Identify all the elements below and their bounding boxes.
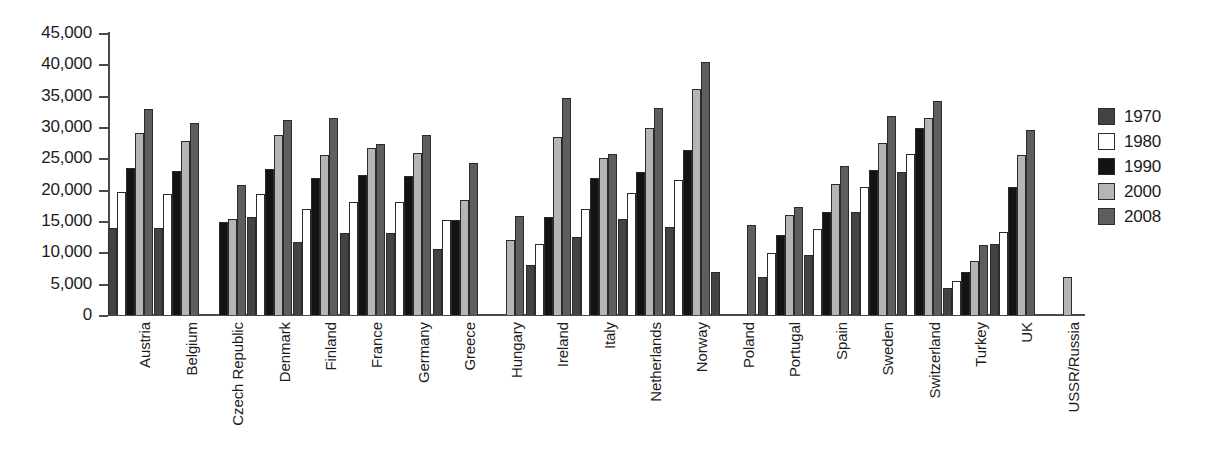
legend-label: 2000	[1124, 182, 1161, 202]
bar-group	[572, 33, 617, 315]
bar	[422, 135, 431, 315]
bar-group	[340, 33, 385, 315]
bar	[1017, 155, 1026, 315]
bar	[776, 235, 785, 315]
x-axis-label: Finland	[322, 322, 339, 371]
y-axis-tick-mark	[99, 190, 108, 192]
bar	[758, 277, 767, 315]
bar	[108, 228, 117, 315]
y-axis-tick-label: 30,000	[41, 117, 92, 137]
bar	[979, 245, 988, 315]
bar	[349, 202, 358, 315]
bar-group	[433, 33, 478, 315]
bar	[840, 166, 849, 315]
bar	[627, 193, 636, 315]
bar	[126, 168, 135, 315]
bar	[636, 172, 645, 315]
bar	[618, 219, 627, 316]
bar	[265, 169, 274, 315]
y-axis-tick-label: 5,000	[50, 274, 92, 294]
bar	[442, 220, 451, 315]
bar	[413, 153, 422, 315]
bar	[144, 109, 153, 315]
legend-swatch-icon	[1098, 133, 1115, 150]
bar	[608, 154, 617, 315]
bar	[581, 209, 590, 315]
bar-group	[108, 33, 153, 315]
bar	[572, 237, 581, 315]
x-axis-label: Czech Republic	[229, 322, 246, 426]
bar	[804, 255, 813, 315]
y-axis-tick-label: 35,000	[41, 86, 92, 106]
y-axis-tick-mark	[99, 315, 108, 317]
bar	[190, 123, 199, 315]
bar	[340, 233, 349, 315]
bar	[822, 212, 831, 315]
x-axis-label: Turkey	[972, 322, 989, 367]
bar	[860, 187, 869, 315]
bar	[654, 108, 663, 315]
bar	[599, 158, 608, 315]
legend-item[interactable]: 2008	[1098, 204, 1208, 229]
bar	[794, 207, 803, 315]
bar-group	[665, 33, 710, 315]
legend-label: 2008	[1124, 207, 1161, 227]
x-axis-label: Germany	[415, 322, 432, 383]
bar	[293, 242, 302, 315]
bar-group	[897, 33, 942, 315]
bar	[367, 148, 376, 315]
x-axis-label: Belgium	[183, 322, 200, 376]
y-axis-tick-mark	[99, 33, 108, 35]
x-axis-label: Hungary	[508, 322, 525, 378]
bar	[906, 154, 915, 315]
bar-group	[758, 33, 803, 315]
x-axis-label: Denmark	[276, 322, 293, 382]
bar	[961, 272, 970, 315]
bar	[990, 244, 999, 315]
y-axis-tick-mark	[99, 64, 108, 66]
bar	[135, 133, 144, 315]
bar	[506, 240, 515, 315]
x-axis-label: France	[368, 322, 385, 368]
legend-label: 1980	[1124, 132, 1161, 152]
bar	[404, 176, 413, 315]
bar-group	[711, 33, 756, 315]
y-axis-tick-mark	[99, 158, 108, 160]
bar	[320, 155, 329, 315]
legend-item[interactable]: 1970	[1098, 104, 1208, 129]
legend-item[interactable]: 1990	[1098, 154, 1208, 179]
bar	[460, 200, 469, 315]
legend-item[interactable]: 1980	[1098, 129, 1208, 154]
x-axis-label: UK	[1018, 322, 1035, 343]
bar	[256, 194, 265, 315]
bar	[674, 180, 683, 315]
legend-item[interactable]: 2000	[1098, 179, 1208, 204]
bar-group	[154, 33, 199, 315]
legend-swatch-icon	[1098, 108, 1115, 125]
x-axis-label: Italy	[601, 322, 618, 349]
y-axis-tick-label: 10,000	[41, 242, 92, 262]
bar	[999, 232, 1008, 315]
bar	[469, 163, 478, 315]
legend-label: 1970	[1124, 107, 1161, 127]
bar	[386, 233, 395, 315]
bar	[590, 178, 599, 315]
bar-group	[201, 33, 246, 315]
bar	[395, 202, 404, 315]
x-axis-label: Austria	[136, 322, 153, 368]
bar-group	[851, 33, 896, 315]
bar	[311, 178, 320, 315]
x-axis-label: Netherlands	[647, 322, 664, 402]
bar	[376, 144, 385, 315]
x-axis-label: Norway	[693, 322, 710, 372]
bar	[283, 120, 292, 315]
bar	[181, 141, 190, 315]
bar	[785, 215, 794, 315]
bar	[897, 172, 906, 315]
bar-group	[1036, 33, 1081, 315]
bar	[869, 170, 878, 315]
x-axis-label: Sweden	[879, 322, 896, 376]
bar	[1008, 187, 1017, 315]
bar	[645, 128, 654, 315]
bar-group	[479, 33, 524, 315]
